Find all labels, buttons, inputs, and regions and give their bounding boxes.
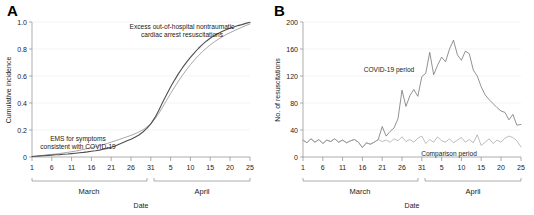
panel-b-month-april: April xyxy=(465,187,480,196)
panel-b-gridlines xyxy=(303,22,521,130)
panel-b-ytick-2: 80 xyxy=(290,100,298,107)
panel-b-ytick-1: 40 xyxy=(290,127,298,134)
panel-a-month-brackets xyxy=(32,178,250,181)
panel-a-annotation-ems-line1: EMS for symptoms xyxy=(50,135,106,143)
panel-b-xtick-0: 1 xyxy=(301,164,305,171)
panel-a-xtick-8: 10 xyxy=(187,164,195,171)
panel-b-y-ticks xyxy=(300,22,303,157)
panel-b-plot: 200 160 120 80 40 0 No. of resuscitation… xyxy=(267,0,534,215)
panel-a-annotation-ems-line2: consistent with COVID-19 xyxy=(40,143,116,150)
panel-b-ytick-0: 0 xyxy=(294,154,298,161)
panel-a-month-march: March xyxy=(79,187,100,196)
panel-a-x-ticks xyxy=(32,157,250,161)
panel-b-annotation-comparison: Comparison period xyxy=(421,150,477,158)
panel-b-ytick-5: 200 xyxy=(286,19,298,26)
panel-b-y-axis-title: No. of resuscitations xyxy=(274,58,281,122)
panel-a-xtick-2: 11 xyxy=(68,164,75,171)
panel-a-xtick-0: 1 xyxy=(30,164,34,171)
panel-a-ytick-2: 0.4 xyxy=(17,100,27,107)
panel-a-x-axis-title: Date xyxy=(134,202,149,209)
panel-b-month-brackets xyxy=(303,178,521,181)
panel-b-xtick-8: 10 xyxy=(458,164,466,171)
panel-b-xtick-3: 16 xyxy=(359,164,367,171)
panel-b-xtick-1: 6 xyxy=(321,164,325,171)
panel-b-xtick-9: 15 xyxy=(477,164,485,171)
panel-a-xtick-4: 21 xyxy=(107,164,115,171)
figure-container: A 1.0 0.8 0.6 0.4 xyxy=(0,0,534,215)
panel-b-x-axis-title: Date xyxy=(405,202,420,209)
panel-a-xtick-7: 5 xyxy=(169,164,173,171)
panel-b-series-covid xyxy=(303,40,521,147)
panel-a-y-ticks xyxy=(29,22,32,157)
panel-a-ytick-0: 0 xyxy=(23,154,27,161)
panel-b-annotation-covid: COVID-19 period xyxy=(364,66,415,74)
panel-a-xtick-11: 25 xyxy=(246,164,254,171)
panel-a-xtick-10: 20 xyxy=(226,164,234,171)
panel-a: A 1.0 0.8 0.6 0.4 xyxy=(0,0,267,215)
panel-a-annotation-excess-line1: Excess out-of-hospital nontraumatic xyxy=(130,23,236,31)
panel-a-ytick-5: 1.0 xyxy=(17,19,27,26)
panel-a-gridlines xyxy=(32,22,250,130)
panel-b-xtick-11: 25 xyxy=(517,164,525,171)
panel-a-ytick-4: 0.8 xyxy=(17,46,27,53)
panel-b-xtick-2: 11 xyxy=(339,164,346,171)
panel-a-y-axis-title: Cumulative incidence xyxy=(5,57,12,124)
panel-b-ytick-3: 120 xyxy=(286,73,298,80)
panel-b-xtick-5: 26 xyxy=(398,164,406,171)
panel-a-xtick-5: 26 xyxy=(127,164,135,171)
panel-a-xtick-9: 15 xyxy=(206,164,214,171)
panel-a-annotation-excess-line2: cardiac arrest resuscitations xyxy=(141,31,224,38)
panel-a-ytick-1: 0.2 xyxy=(17,127,27,134)
panel-a-xtick-6: 31 xyxy=(147,164,155,171)
panel-b-xtick-10: 20 xyxy=(497,164,505,171)
panel-b-ytick-4: 160 xyxy=(286,46,298,53)
panel-b-xtick-4: 21 xyxy=(378,164,386,171)
panel-a-xtick-1: 6 xyxy=(50,164,54,171)
panel-b-x-ticks xyxy=(303,157,521,161)
panel-a-xtick-3: 16 xyxy=(88,164,96,171)
panel-a-ytick-3: 0.6 xyxy=(17,73,27,80)
panel-b-series-comparison xyxy=(303,135,521,148)
panel-b-xtick-7: 5 xyxy=(440,164,444,171)
panel-a-plot: 1.0 0.8 0.6 0.4 0.2 0 Cumulative inciden… xyxy=(0,0,267,215)
panel-b-xtick-6: 31 xyxy=(418,164,426,171)
panel-b: B 200 160 120 80 xyxy=(267,0,534,215)
panel-a-month-april: April xyxy=(194,187,209,196)
panel-b-month-march: March xyxy=(350,187,371,196)
